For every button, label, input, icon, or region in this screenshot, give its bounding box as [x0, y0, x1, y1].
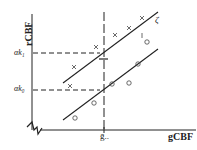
k0-marker-label: αk₀ — [14, 84, 25, 93]
y-axis-label: rCBF — [23, 22, 34, 46]
axis-break-icon — [27, 122, 42, 134]
o-markers — [73, 40, 149, 120]
lower-regression-line — [63, 49, 158, 120]
line-label: ζ — [155, 15, 159, 25]
upper-regression-line — [63, 12, 158, 83]
k1-marker-label: αk₁ — [14, 48, 25, 57]
x-markers — [68, 8, 144, 88]
x-axis-label: gCBF — [168, 131, 193, 142]
gbar-marker-label: ḡ.. — [100, 131, 109, 141]
